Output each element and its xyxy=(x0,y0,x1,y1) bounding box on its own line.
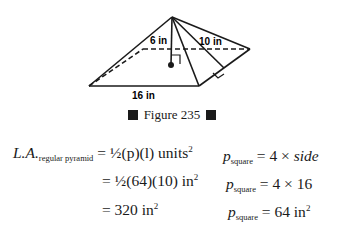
la-line1: = ½(p)(l) units xyxy=(97,144,188,161)
base-side-label: 16 in xyxy=(132,90,155,101)
la-line3: = 320 in xyxy=(102,201,154,218)
perimeter-result: psquare = 64 in2 xyxy=(228,203,310,221)
la-line2: = ½(64)(10) in xyxy=(102,172,194,189)
exponent: 2 xyxy=(188,144,193,154)
exponent: 2 xyxy=(194,172,199,182)
p-line1: = 4 × xyxy=(257,147,294,164)
p-symbol: p xyxy=(223,147,231,164)
slant-edge-label: 6 in xyxy=(150,35,167,46)
lateral-area-formula: L.A.regular pyramid = ½(p)(l) units2 xyxy=(13,144,193,162)
perimeter-substitution: psquare = 4 × 16 xyxy=(226,175,312,193)
p-subscript: square xyxy=(231,156,253,166)
slant-height-label: 10 in xyxy=(199,36,222,47)
caption-text: Figure 235 xyxy=(144,107,201,123)
square-bullet-icon xyxy=(206,110,216,120)
exponent: 2 xyxy=(306,203,311,213)
p-symbol: p xyxy=(226,175,234,192)
lateral-area-substitution: = ½(64)(10) in2 xyxy=(102,172,198,190)
figure-caption: Figure 235 xyxy=(0,107,344,123)
perimeter-formula: psquare = 4 × side xyxy=(223,147,319,165)
p-line3: = 64 in xyxy=(262,203,306,220)
pyramid-figure: 6 in 10 in 16 in xyxy=(0,0,344,105)
la-symbol: L.A. xyxy=(13,144,39,161)
exponent: 2 xyxy=(154,201,159,211)
la-subscript: regular pyramid xyxy=(39,153,94,163)
p-subscript: square xyxy=(234,184,256,194)
p-line2: = 4 × 16 xyxy=(260,175,312,192)
p-symbol: p xyxy=(228,203,236,220)
p-subscript: square xyxy=(236,212,258,222)
side-word: side xyxy=(294,147,319,164)
lateral-area-result: = 320 in2 xyxy=(102,201,158,219)
square-bullet-icon xyxy=(128,110,138,120)
